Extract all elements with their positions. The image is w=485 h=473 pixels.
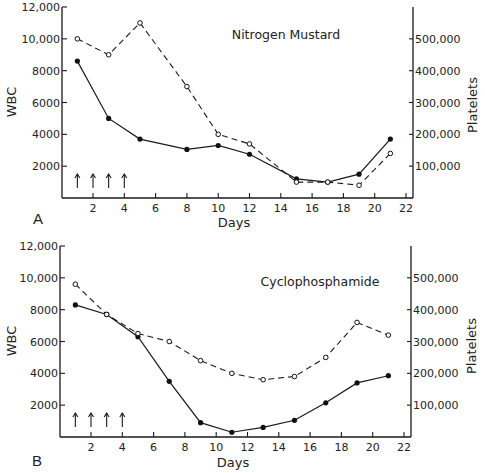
panel-b-platelets-point [136,331,141,336]
panel-b-y2-tick-label: 100,000 [413,399,459,412]
panel-b-wbc-point [167,379,172,384]
panel-b-x-tick-label: 2 [88,441,95,454]
dose-arrow-icon [106,174,111,188]
panel-a-y-tick-label: 2000 [32,160,60,173]
panel-b-y-axis-label: WBC [4,326,19,357]
panel-b-y2-tick-label: 300,000 [413,336,459,349]
panel-a-wbc-point [356,172,361,177]
panel-b-x-axis-label: Days [217,455,250,470]
panel-b-y-tick-label: 12,000 [20,240,59,253]
panel-a-platelets-line [77,23,390,185]
panel-a-platelets-point [388,151,393,156]
panel-a-platelets-point [247,142,252,147]
panel-a-x-tick-label: 2 [90,202,97,215]
dose-arrow-icon [120,413,125,427]
panel-a-platelets-point [294,180,299,185]
panel-a-x-tick-label: 22 [399,202,413,215]
chart-figure: Nitrogen Mustard WBC Platelets Days A 20… [0,0,485,473]
panel-a-y2-tick-label: 200,000 [415,128,461,141]
panel-b-y2-axis-label: Platelets [464,318,479,374]
panel-a-x-tick-label: 8 [183,202,190,215]
panel-a-y2-tick-label: 400,000 [415,65,461,78]
panel-a-x-tick-label: 10 [211,202,225,215]
panel-a-y-tick-label: 10,000 [22,33,61,46]
dose-arrow-icon [91,174,96,188]
panel-b-platelets-point [230,371,235,376]
panel-a-y2-axis-label: Platelets [465,77,480,133]
panel-b-x-tick-label: 22 [397,441,411,454]
dose-arrow-icon [75,174,80,188]
panel-b-title: Cyclophosphamide [261,274,380,289]
panel-b-wbc-point [354,380,359,385]
panel-b-x-tick-label: 8 [181,441,188,454]
panel-a-wbc-point [137,137,142,142]
panel-a-platelets-point [216,132,221,137]
panel-b-x-tick-label: 10 [209,441,223,454]
panel-a-x-tick-label: 4 [121,202,128,215]
panel-b-platelets-point [167,339,172,344]
panel-a-wbc-point [106,116,111,121]
panel-a-y-tick-label: 4000 [32,128,60,141]
panel-b-platelets-point [261,377,266,382]
panel-a-x-tick-label: 18 [336,202,350,215]
panel-b-platelets-point [292,374,297,379]
panel-b-platelets-point [386,333,391,338]
panel-a-x-tick-label: 14 [274,202,288,215]
panel-a-x-axis-label: Days [218,215,251,230]
panel-b-x-tick-label: 12 [241,441,255,454]
panel-a-y2-tick-label: 100,000 [415,160,461,173]
panel-a-wbc-point [388,137,393,142]
dose-arrow-icon [89,413,94,427]
panel-a-platelets-point [357,183,362,188]
panel-a-wbc-point [247,152,252,157]
panel-b-wbc-point [386,373,391,378]
panel-b-x-tick-label: 16 [303,441,317,454]
panel-b-platelets-line [75,284,388,380]
panel-b-y2-tick-label: 400,000 [413,304,459,317]
panel-a-y-axis-label: WBC [4,87,19,118]
panel-a-y2-tick-label: 500,000 [415,33,461,46]
panel-b-wbc-point [292,418,297,423]
panel-a-x-tick-label: 6 [152,202,159,215]
panel-b-label: B [32,452,42,469]
panel-b-x-tick-label: 18 [334,441,348,454]
panel-a-platelets-point [75,37,80,42]
panel-b-y2-tick-label: 200,000 [413,367,459,380]
panel-b-cyclophosphamide: Cyclophosphamide WBC Platelets Days B 20… [4,240,479,470]
panel-b-y-tick-label: 8000 [30,304,58,317]
panel-b-platelets-point [355,320,360,325]
panel-a-y2-tick-label: 300,000 [415,97,461,110]
panel-b-wbc-point [229,430,234,435]
panel-a-x-tick-label: 12 [243,202,257,215]
panel-a-x-tick-label: 20 [368,202,382,215]
panel-a-platelets-point [325,180,330,185]
panel-b-x-tick-label: 20 [366,441,380,454]
panel-b-x-tick-label: 4 [119,441,126,454]
panel-a-nitrogen-mustard: Nitrogen Mustard WBC Platelets Days A 20… [4,1,480,230]
panel-a-wbc-point [184,147,189,152]
panel-b-y-tick-label: 10,000 [20,272,59,285]
panel-b-y-tick-label: 2000 [30,399,58,412]
panel-a-title: Nitrogen Mustard [232,27,340,42]
panel-a-wbc-point [216,143,221,148]
panel-a-y-tick-label: 6000 [32,97,60,110]
dose-arrow-icon [122,174,127,188]
dose-arrow-icon [73,413,78,427]
panel-a-platelets-point [185,84,190,89]
panel-a-x-tick-label: 16 [305,202,319,215]
panel-a-wbc-line [77,61,390,182]
panel-b-x-tick-label: 14 [272,441,286,454]
panel-a-y-tick-label: 8000 [32,65,60,78]
panel-a-platelets-point [106,52,111,57]
panel-a-wbc-point [75,59,80,64]
panel-b-wbc-point [73,302,78,307]
dose-arrow-icon [104,413,109,427]
panel-b-wbc-point [261,425,266,430]
panel-a-label: A [33,210,43,227]
panel-b-x-tick-label: 6 [150,441,157,454]
panel-b-platelets-point [198,358,203,363]
panel-b-y-tick-label: 4000 [30,367,58,380]
panel-b-wbc-point [198,420,203,425]
panel-b-platelets-point [73,282,78,287]
panel-b-wbc-point [323,400,328,405]
